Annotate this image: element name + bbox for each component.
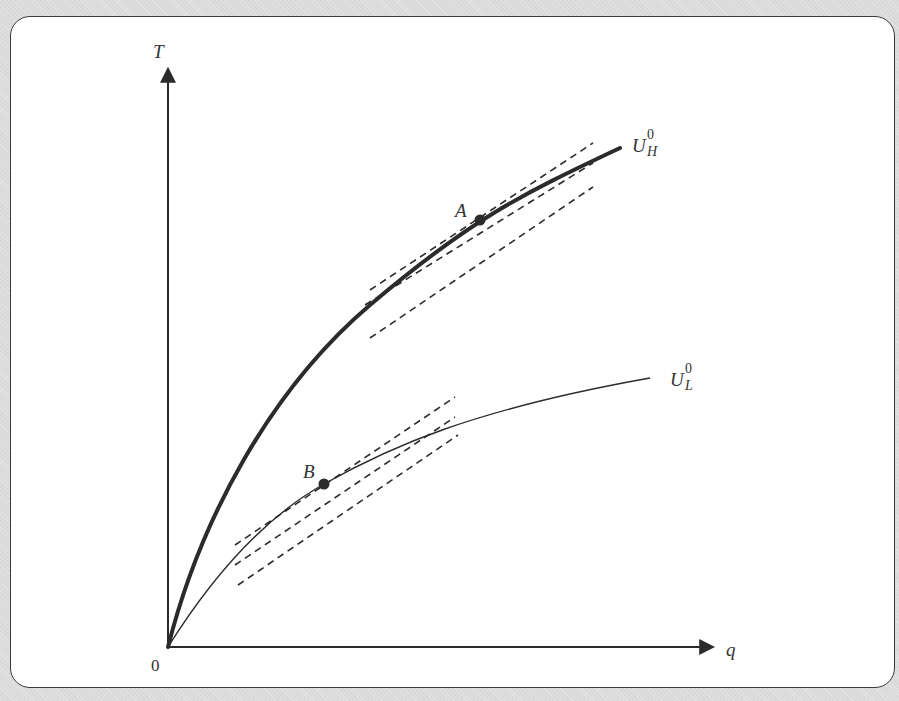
origin-label: 0 <box>151 657 160 674</box>
chart-canvas <box>0 0 899 701</box>
tangent-lines-b <box>235 397 458 585</box>
point-b-label: B <box>303 462 315 481</box>
point-a-label: A <box>455 201 467 220</box>
point-b <box>319 479 330 490</box>
point-a <box>475 215 486 226</box>
tangent-lines-a <box>365 143 593 338</box>
y-axis-label: T <box>153 42 164 61</box>
curve-u-high-label: U 0 H <box>632 136 646 155</box>
curve-u-low-label: U 0 L <box>670 370 684 389</box>
curve-u-low <box>168 378 650 647</box>
x-axis-label: q <box>726 640 736 659</box>
